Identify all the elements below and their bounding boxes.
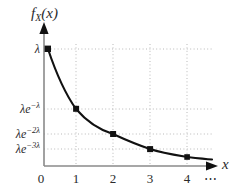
y-tick-e1-exponent: −λ <box>31 100 40 110</box>
marker-x-3 <box>147 146 153 152</box>
y-axis <box>39 22 48 166</box>
y-tick-e2-base: λe <box>16 127 27 141</box>
y-axis-title-argument: (x) <box>41 5 58 21</box>
x-axis-title: x <box>222 157 229 172</box>
x-tick-label-1: 1 <box>73 172 80 185</box>
y-tick-e1-base: λe <box>20 102 31 116</box>
marker-x-0 <box>45 46 51 52</box>
y-tick-label-lambda-exp-3: λe−3λ <box>0 143 40 155</box>
y-axis-arrowhead <box>39 22 48 34</box>
y-tick-label-lambda: λ <box>22 43 40 55</box>
x-tick-label-2: 2 <box>110 172 117 185</box>
x-axis-arrowhead <box>206 161 218 170</box>
y-tick-e3-base: λe <box>16 142 27 156</box>
vertical-gridlines <box>76 44 187 166</box>
x-tick-label-3: 3 <box>147 172 154 185</box>
plot-canvas <box>0 0 238 195</box>
x-axis-continuation-ellipsis: ⋯ <box>204 172 218 185</box>
y-tick-label-lambda-exp-1: λe−λ <box>0 103 40 115</box>
x-tick-label-0: 0 <box>38 172 45 185</box>
x-axis <box>44 161 218 170</box>
y-axis-title: fX(x) <box>31 6 58 23</box>
curve-markers <box>45 46 190 160</box>
marker-x-1 <box>73 106 79 112</box>
marker-x-4 <box>184 154 190 160</box>
y-tick-e3-exponent: −3λ <box>26 140 40 150</box>
y-tick-e2-exponent: −2λ <box>26 125 40 135</box>
x-tick-label-4: 4 <box>184 172 191 185</box>
exponential-pdf-figure: fX(x) x λ λe−λ λe−2λ λe−3λ 0 1 2 3 4 ⋯ <box>0 0 238 195</box>
y-tick-label-lambda-exp-2: λe−2λ <box>0 128 40 140</box>
marker-x-2 <box>110 131 116 137</box>
